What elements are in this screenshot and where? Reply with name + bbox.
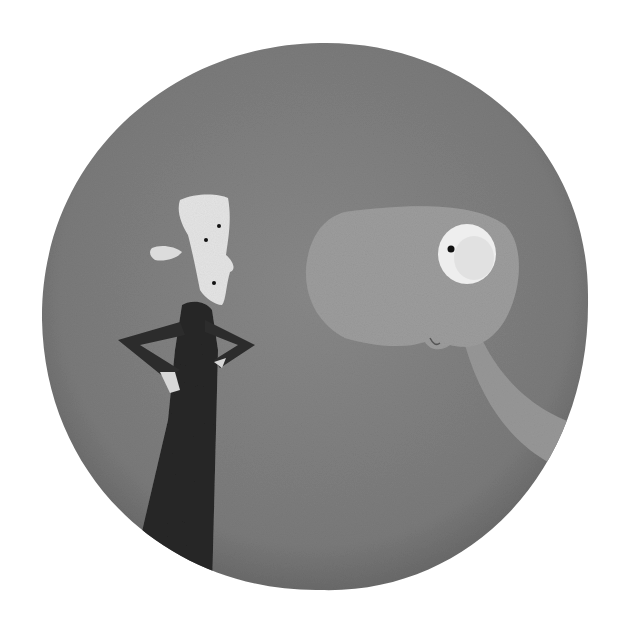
creature-pupil bbox=[448, 246, 455, 253]
character-eye bbox=[204, 238, 208, 242]
character-mouth bbox=[212, 281, 216, 285]
illustration bbox=[0, 0, 628, 634]
creature-eye bbox=[438, 224, 496, 284]
creature-head bbox=[306, 206, 519, 349]
character-eye bbox=[217, 224, 221, 228]
